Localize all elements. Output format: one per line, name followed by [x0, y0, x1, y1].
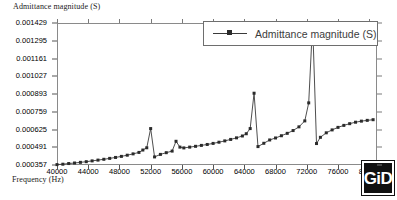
data-point	[114, 156, 117, 159]
y-axis-tick-mark-right	[377, 76, 382, 77]
data-point	[223, 139, 226, 142]
data-point	[165, 151, 168, 154]
x-axis-tick-label: 76000	[328, 168, 349, 176]
data-point	[73, 162, 76, 165]
data-point	[366, 119, 369, 122]
data-point	[348, 122, 351, 125]
data-point	[194, 145, 197, 148]
y-axis-tick-label: 0.000491	[16, 144, 47, 152]
data-point	[132, 152, 135, 155]
data-point	[241, 134, 244, 137]
x-axis-tick-label: 44000	[78, 168, 99, 176]
data-point	[268, 138, 271, 141]
y-axis-tick-label: 0.000357	[16, 161, 47, 169]
y-axis-tick-label: 0.001027	[16, 73, 47, 81]
data-point	[61, 163, 64, 166]
data-point	[79, 161, 82, 164]
data-point	[67, 162, 70, 165]
x-axis-tick-label: 68000	[265, 168, 286, 176]
data-point	[235, 136, 238, 139]
data-point	[253, 92, 256, 95]
gid-watermark-label: GiD	[364, 163, 392, 193]
x-axis-tick-mark	[151, 165, 152, 169]
y-axis-tick-mark-right	[377, 23, 382, 24]
data-point	[188, 146, 191, 149]
x-axis-tick-mark	[88, 165, 89, 169]
x-axis-tick-label: 60000	[203, 168, 224, 176]
y-axis-tick-mark-right	[377, 40, 382, 41]
admittance-chart: Admittance magnitude (S) Frequency (Hz) …	[0, 0, 397, 200]
y-axis-tick-mark-right	[377, 58, 382, 59]
x-axis-tick-label: 72000	[296, 168, 317, 176]
data-point	[303, 119, 306, 122]
data-point	[256, 145, 259, 148]
y-axis-tick-mark-right	[377, 129, 382, 130]
y-axis-tick-label: 0.000759	[16, 108, 47, 116]
x-axis-tick-mark	[119, 165, 120, 169]
y-axis-tick-mark-right	[377, 147, 382, 148]
data-point	[91, 159, 94, 162]
x-axis-tick-mark	[213, 165, 214, 169]
data-point	[56, 163, 59, 166]
x-axis-tick-mark	[307, 165, 308, 169]
data-point	[137, 151, 140, 154]
data-point	[331, 128, 334, 131]
data-point	[342, 124, 345, 127]
data-point	[85, 160, 88, 163]
x-axis-tick-label: 52000	[140, 168, 161, 176]
data-point	[336, 126, 339, 129]
data-point	[280, 134, 283, 137]
data-point	[120, 155, 123, 158]
legend-label: Admittance magnitude (S)	[255, 28, 376, 40]
data-point	[286, 132, 289, 135]
data-point	[108, 157, 111, 160]
data-point	[354, 121, 357, 124]
data-point	[182, 146, 185, 149]
data-point	[102, 158, 105, 161]
data-point	[262, 142, 265, 145]
y-axis-tick-mark-right	[377, 111, 382, 112]
x-axis-tick-label: 56000	[171, 168, 192, 176]
y-axis-tick-label: 0.000893	[16, 90, 47, 98]
data-point	[325, 131, 328, 134]
data-point	[159, 153, 162, 156]
data-point	[153, 155, 156, 158]
x-axis-tick-mark	[244, 165, 245, 169]
legend-marker-icon	[213, 29, 247, 38]
data-point	[360, 120, 363, 123]
x-axis-tick-mark	[338, 165, 339, 169]
data-point	[212, 142, 215, 145]
data-point	[319, 136, 322, 139]
x-axis-tick-mark	[182, 165, 183, 169]
data-point	[245, 132, 248, 135]
data-point	[175, 140, 178, 143]
data-point	[372, 118, 375, 121]
x-axis-tick-mark	[276, 165, 277, 169]
data-point	[217, 141, 220, 144]
y-axis-tick-label: 0.001161	[16, 55, 47, 63]
data-point	[315, 142, 318, 145]
data-point	[307, 101, 310, 104]
data-point	[206, 143, 209, 146]
y-axis-tick-label: 0.000625	[16, 126, 47, 134]
data-point	[145, 146, 148, 149]
data-point	[297, 125, 300, 128]
x-axis-tick-label: 64000	[234, 168, 255, 176]
data-point	[249, 127, 252, 130]
y-axis-tick-label: 0.001295	[16, 37, 47, 45]
y-axis-tick-mark-right	[377, 165, 382, 166]
data-point	[274, 136, 277, 139]
x-axis-tick-label: 48000	[109, 168, 130, 176]
y-axis-tick-label: 0.001429	[16, 19, 47, 27]
x-axis-tick-label: 40000	[47, 168, 68, 176]
data-point	[126, 154, 129, 157]
chart-legend[interactable]: Admittance magnitude (S)	[203, 21, 378, 46]
data-point	[171, 150, 174, 153]
data-point	[149, 127, 152, 130]
data-point	[229, 138, 232, 141]
y-axis-tick-mark-right	[377, 94, 382, 95]
data-point	[292, 129, 295, 132]
data-point	[141, 149, 144, 152]
data-point	[178, 146, 181, 149]
data-point	[200, 144, 203, 147]
